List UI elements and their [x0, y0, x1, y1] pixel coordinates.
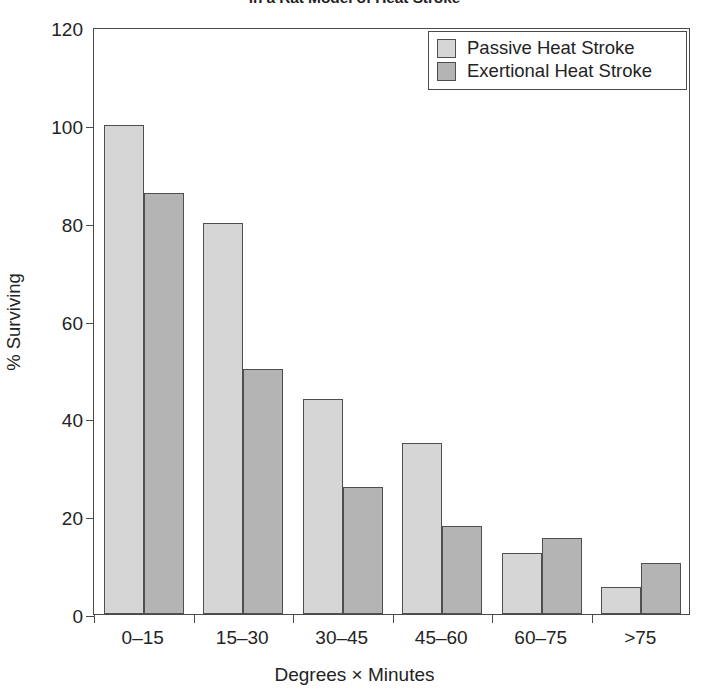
bar: [542, 538, 582, 614]
x-tick-label: 0–15: [122, 628, 164, 647]
y-tick-label: 120: [51, 20, 94, 39]
chart-title: in a Rat Model of Heat Stroke: [0, 0, 709, 7]
legend-item: Passive Heat Stroke: [437, 37, 678, 60]
x-tick-label: 60–75: [514, 628, 567, 647]
bar: [243, 369, 283, 614]
bar: [601, 587, 641, 614]
bar: [203, 223, 243, 614]
legend-label: Exertional Heat Stroke: [467, 62, 652, 81]
bar: [442, 526, 482, 614]
x-tick-mark: [94, 614, 95, 623]
x-tick-label: >75: [624, 628, 656, 647]
legend-label: Passive Heat Stroke: [467, 39, 635, 58]
bar: [641, 563, 681, 614]
x-tick-mark: [592, 614, 593, 623]
bar: [402, 443, 442, 614]
legend-swatch-icon: [437, 39, 456, 58]
y-tick-mark: [86, 420, 94, 421]
y-tick-mark: [86, 225, 94, 226]
y-tick-mark: [86, 127, 94, 128]
bar: [144, 193, 184, 614]
x-tick-mark: [293, 614, 294, 623]
y-tick-mark: [86, 616, 94, 617]
legend-swatch-icon: [437, 62, 456, 81]
x-tick-label: 45–60: [415, 628, 468, 647]
bar: [104, 125, 144, 614]
x-tick-mark: [492, 614, 493, 623]
x-tick-label: 30–45: [315, 628, 368, 647]
y-tick-mark: [86, 323, 94, 324]
x-tick-mark: [194, 614, 195, 623]
x-tick-label: 15–30: [216, 628, 269, 647]
bar: [343, 487, 383, 614]
bar-chart-figure: in a Rat Model of Heat Stroke % Survivin…: [0, 0, 709, 692]
y-tick-mark: [86, 518, 94, 519]
x-axis-label: Degrees × Minutes: [0, 664, 709, 686]
legend-item: Exertional Heat Stroke: [437, 60, 678, 83]
chart-legend: Passive Heat StrokeExertional Heat Strok…: [428, 31, 687, 90]
x-tick-mark: [393, 614, 394, 623]
bar: [303, 399, 343, 614]
y-axis-label: % Surviving: [3, 273, 25, 371]
plot-area: 020406080100120: [93, 28, 690, 615]
bar: [502, 553, 542, 614]
